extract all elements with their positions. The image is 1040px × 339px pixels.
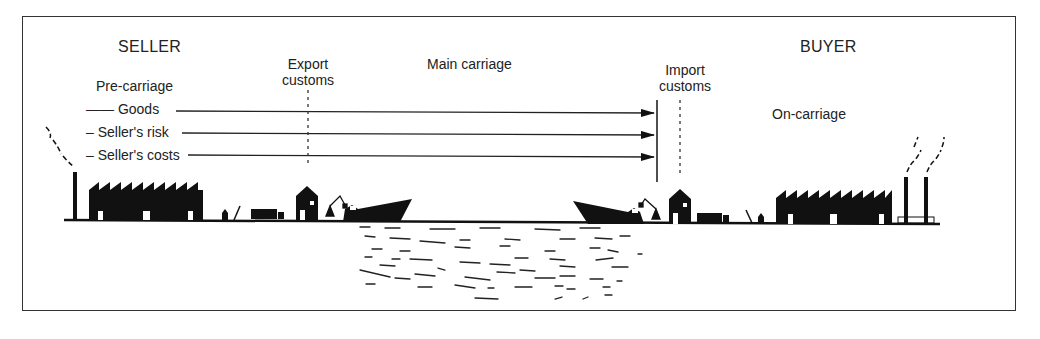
buyer-factory-icon: [776, 190, 892, 224]
seller-truck-icon: [251, 209, 284, 219]
buyer-ship-icon: [573, 201, 644, 224]
risk-arrow: [182, 133, 654, 135]
arrow-lines: [176, 111, 654, 157]
export-customs-house-icon: [296, 186, 318, 220]
export-crane-icon: [326, 196, 347, 216]
sea-waves-icon: [360, 227, 642, 299]
import-crane-icon: [639, 199, 660, 219]
seller-forklift-icon: [222, 206, 240, 220]
buyer-chimneys-icon: [898, 137, 944, 224]
seller-factory-icon: [89, 182, 203, 220]
buyer-truck-icon: [697, 213, 729, 223]
seller-ship-icon: [343, 199, 412, 222]
costs-arrow: [188, 155, 654, 157]
goods-arrow: [176, 111, 654, 113]
seller-chimney-icon: [46, 127, 77, 220]
import-customs-house-icon: [669, 189, 691, 224]
diagram-graphics: [0, 0, 1040, 339]
